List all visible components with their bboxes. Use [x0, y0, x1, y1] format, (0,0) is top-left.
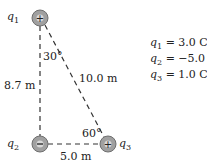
plus-icon: + — [36, 13, 44, 24]
distance-q1-q2: 8.7 m — [4, 80, 35, 91]
label-q1: q1 — [7, 11, 19, 25]
charge-q1: + — [32, 10, 48, 26]
distance-q2-q3: 5.0 m — [60, 151, 91, 162]
plus-icon: + — [104, 139, 112, 150]
charge-q3: + — [100, 136, 116, 152]
angle-q3: 60° — [82, 128, 102, 139]
label-q3: q3 — [119, 138, 131, 152]
value-q3: q3 = 1.0 C — [150, 69, 207, 83]
value-q2: q2 = −5.0 C — [150, 53, 207, 67]
angle-q1: 30° — [43, 51, 63, 62]
label-q2: q2 — [7, 138, 19, 152]
charge-q2 — [32, 136, 48, 152]
value-q1: q1 = 3.0 C — [150, 37, 207, 51]
distance-q1-q3: 10.0 m — [79, 73, 117, 84]
